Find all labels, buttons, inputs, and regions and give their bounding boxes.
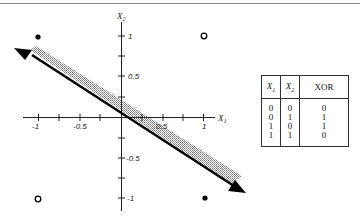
table-row: 1 0 1 xyxy=(262,122,349,131)
table-row: 0 1 1 xyxy=(262,113,349,122)
y-tick-label: 0.5 xyxy=(128,72,140,81)
y-tick-label: 1 xyxy=(128,32,132,41)
cell-x2: 1 xyxy=(281,131,300,147)
point-filled-0-1 xyxy=(35,34,40,39)
point-filled-1-0 xyxy=(202,195,207,200)
y-tick-label: -0.5 xyxy=(126,154,140,163)
x-axis xyxy=(23,114,185,121)
header-x1: X1 xyxy=(262,76,281,99)
table-row: 1 1 0 xyxy=(262,131,349,147)
header-x2: X2 xyxy=(281,76,300,99)
shaded-band xyxy=(30,46,242,184)
cell-xor: 0 xyxy=(300,99,349,114)
y-tick-label: -1 xyxy=(127,194,134,203)
cell-xor: 0 xyxy=(300,131,349,147)
point-open-1-1 xyxy=(201,33,207,39)
cell-x1: 1 xyxy=(262,131,281,147)
header-xor: XOR xyxy=(300,76,349,99)
y-axis xyxy=(118,22,125,211)
x-axis-right xyxy=(183,114,215,121)
point-open-0-0 xyxy=(35,196,41,202)
x-tick-label: 0.5 xyxy=(156,122,168,131)
y-axis-label: X2 xyxy=(116,11,126,22)
xor-truth-table: X1 X2 XOR 0 0 0 0 1 1 1 0 1 1 1 0 xyxy=(261,75,349,147)
table-row: 0 0 0 xyxy=(262,99,349,114)
decision-line xyxy=(14,48,246,193)
cell-x1: 0 xyxy=(262,99,281,114)
x-tick-label: -0.5 xyxy=(73,122,87,131)
x-tick-label: -1 xyxy=(32,122,39,131)
x-tick-label: 1 xyxy=(202,122,206,131)
arrowhead-left-icon xyxy=(14,48,32,60)
x-axis-label: X1 xyxy=(217,113,227,124)
cell-x2: 0 xyxy=(281,99,300,114)
